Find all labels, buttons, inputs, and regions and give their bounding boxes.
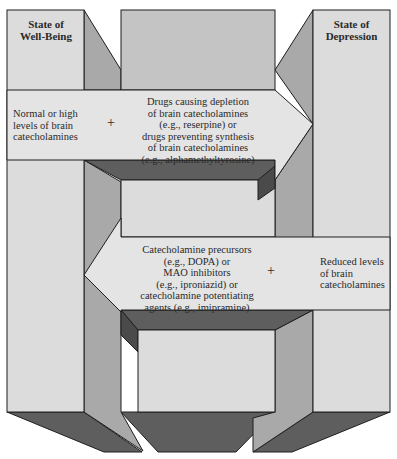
well-being-title: State of Well-Being <box>8 18 84 42</box>
depression-title-line-1: State of <box>313 18 390 30</box>
well-being-column <box>7 10 84 412</box>
text-line: (e.g., alphamethyltyrosine) <box>133 154 263 166</box>
normal-levels-text: Normal or high levels of brain catechola… <box>13 108 93 143</box>
center-lower-block <box>138 330 275 412</box>
restoring-drugs-text: Catecholamine precursors (e.g., DOPA) or… <box>132 244 262 313</box>
depleting-drugs-text: Drugs causing depletion of brain catecho… <box>133 96 263 165</box>
depression-column <box>313 10 390 412</box>
text-line: catecholamine potentiating <box>132 290 262 302</box>
text-line: of brain catecholamines <box>133 142 263 154</box>
text-line: drugs preventing synthesis <box>133 131 263 143</box>
text-line: of brain catecholamines <box>133 108 263 120</box>
text-line: (e.g., DOPA) or <box>132 256 262 268</box>
center-middle-block <box>121 180 275 237</box>
text-line: Normal or high <box>13 108 93 120</box>
center-top-block <box>121 10 275 90</box>
well-being-title-line-2: Well-Being <box>8 30 84 42</box>
bottom-plus-sign: + <box>264 264 278 278</box>
text-line: catecholamines <box>320 279 390 291</box>
top-plus-sign: + <box>104 116 118 130</box>
text-line: catecholamines <box>13 131 93 143</box>
well-being-title-line-1: State of <box>8 18 84 30</box>
text-line: Drugs causing depletion <box>133 96 263 108</box>
text-line: Catecholamine precursors <box>132 244 262 256</box>
depression-title-line-2: Depression <box>313 30 390 42</box>
catecholamine-depression-diagram <box>0 0 397 459</box>
text-line: Reduced levels <box>320 256 390 268</box>
left-column-side-upper <box>84 10 121 90</box>
text-line: MAO inhibitors <box>132 267 262 279</box>
text-line: of brain <box>320 268 390 280</box>
depression-title: State of Depression <box>313 18 390 42</box>
text-line: levels of brain <box>13 120 93 132</box>
text-line: agents (e.g., imipramine) <box>132 302 262 314</box>
text-line: (e.g., reserpine) or <box>133 119 263 131</box>
text-line: (e.g., iproniazid) or <box>132 279 262 291</box>
reduced-levels-text: Reduced levels of brain catecholamines <box>320 256 390 291</box>
center-bottom-face <box>121 412 275 452</box>
